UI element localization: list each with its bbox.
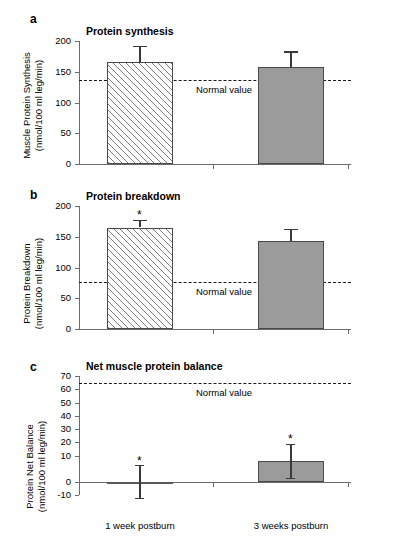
panel-c-yticklabel-10: 10 [44, 450, 71, 461]
panel-b-yticklabel-100: 100 [40, 262, 71, 273]
panel-a-errorbar-1-upper [139, 46, 140, 62]
panel-c-ytick-20 [75, 442, 79, 443]
panel-a: a Protein synthesis Muscle Protein Synth… [0, 0, 408, 180]
panel-a-errorbar-2-cap [284, 51, 298, 52]
panel-c-yticklabel-minus10: -10 [40, 489, 71, 500]
panel-a-yticklabel-100: 100 [40, 97, 71, 108]
panel-a-yticklabel-50: 50 [40, 127, 71, 138]
panel-a-ytick-0 [75, 164, 79, 165]
panel-c-ytick-0 [75, 482, 79, 483]
panel-c-yticklabel-0: 0 [44, 476, 71, 487]
panel-c-errorbar-1-cap-bottom [135, 498, 144, 499]
panel-a-yticklabel-150: 150 [40, 66, 71, 77]
panel-b-normal-value-label: Normal value [196, 286, 252, 297]
panel-b-plot-area: 200 150 100 50 0 Normal value * [0, 180, 408, 360]
panel-a-plot-area: 200 150 100 50 0 Normal value [0, 0, 408, 180]
panel-b-y-axis [79, 206, 80, 330]
panel-c-xtick-mid [213, 483, 214, 487]
panel-c-yticklabel-40: 40 [44, 410, 71, 421]
panel-b-yticklabel-0: 0 [40, 323, 71, 334]
panel-a-y-axis [79, 41, 80, 165]
panel-a-bar-2 [258, 67, 324, 164]
panel-c-significance-marker-2: * [288, 434, 293, 444]
panel-c-yticklabel-30: 30 [44, 423, 71, 434]
panel-b-ytick-50 [75, 298, 79, 299]
figure-panel-group: a Protein synthesis Muscle Protein Synth… [0, 0, 408, 557]
panel-b-ytick-150 [75, 237, 79, 238]
panel-b-ytick-0 [75, 329, 79, 330]
panel-b-bar-2 [258, 241, 324, 329]
panel-c-y-axis [79, 376, 80, 495]
panel-b-xtick-right [348, 330, 349, 334]
panel-b-yticklabel-50: 50 [40, 292, 71, 303]
panel-a-normal-value-label: Normal value [196, 84, 252, 95]
panel-b-xtick-mid [213, 330, 214, 334]
panel-c-errorbar-2-cap-bottom [286, 478, 295, 479]
panel-a-x-axis [79, 164, 351, 165]
panel-c-ytick-50 [75, 403, 79, 404]
panel-a-bar-1 [107, 62, 173, 164]
panel-c-yticklabel-60: 60 [44, 383, 71, 394]
panel-b-yticklabel-150: 150 [40, 231, 71, 242]
panel-b-bar-1 [107, 228, 173, 330]
panel-a-yticklabel-200: 200 [40, 35, 71, 46]
panel-b-ytick-200 [75, 206, 79, 207]
panel-c-ytick-30 [75, 429, 79, 430]
panel-c-errorbar-2 [290, 444, 291, 478]
panel-a-errorbar-2 [290, 51, 291, 67]
panel-b-ytick-100 [75, 268, 79, 269]
panel-c-yticklabel-20: 20 [44, 436, 71, 447]
panel-b-errorbar-2-cap [284, 229, 298, 230]
panel-b-x-axis [79, 329, 351, 330]
panel-c-ytick-70 [75, 376, 79, 377]
panel-c-normal-value-label: Normal value [196, 387, 252, 398]
panel-c-normal-value-line [79, 383, 351, 384]
panel-c-significance-marker-1: * [137, 456, 142, 466]
panel-a-ytick-100 [75, 103, 79, 104]
panel-a-ytick-200 [75, 41, 79, 42]
panel-c-ytick-10 [75, 456, 79, 457]
panel-c-plot-area: 70 60 50 40 30 20 10 0 -10 Normal value [0, 360, 408, 557]
panel-c-yticklabel-70: 70 [44, 370, 71, 381]
panel-c-yticklabel-50: 50 [44, 397, 71, 408]
panel-b-yticklabel-200: 200 [40, 200, 71, 211]
panel-c-ytick-minus10 [75, 495, 79, 496]
panel-a-ytick-150 [75, 72, 79, 73]
panel-c: c Net muscle protein balance Protein Net… [0, 360, 408, 557]
panel-c-xlabel-1: 1 week postburn [80, 520, 200, 531]
panel-b-significance-marker-1: * [137, 210, 142, 220]
panel-b-errorbar-2 [290, 229, 291, 241]
panel-a-ytick-50 [75, 133, 79, 134]
panel-a-yticklabel-0: 0 [40, 158, 71, 169]
panel-b: b Protein breakdown Protein Breakdown (n… [0, 180, 408, 360]
panel-c-ytick-40 [75, 416, 79, 417]
panel-a-xtick-right [348, 165, 349, 169]
panel-c-ytick-60 [75, 389, 79, 390]
panel-c-xlabel-2: 3 weeks postburn [231, 520, 351, 531]
panel-a-xtick-mid [213, 165, 214, 169]
panel-c-errorbar-1 [139, 465, 140, 498]
panel-c-xtick-right [348, 483, 349, 487]
